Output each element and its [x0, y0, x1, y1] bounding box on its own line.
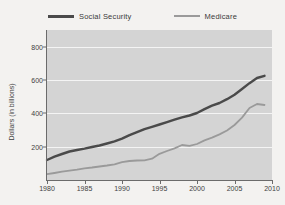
x-tick-label: 2005 [227, 185, 243, 192]
chart-legend: Social Security Medicare [0, 8, 285, 24]
series-line-social-security [47, 76, 265, 160]
y-tick-label: 200 [31, 143, 43, 150]
series-lines [47, 30, 272, 180]
y-tick-label: 400 [31, 110, 43, 117]
x-tick-label: 1990 [114, 185, 130, 192]
x-tick-mark [272, 180, 273, 184]
x-tick-label: 2010 [264, 185, 280, 192]
legend-label-social-security: Social Security [79, 12, 132, 21]
x-tick-label: 1980 [39, 185, 55, 192]
x-axis-line [46, 180, 272, 181]
legend-label-medicare: Medicare [205, 12, 237, 21]
plot-area: 200400600800 198019851990199520002005201… [47, 30, 272, 180]
legend-item-social-security: Social Security [48, 12, 132, 21]
legend-swatch-social-security [48, 15, 74, 18]
x-tick-label: 1985 [77, 185, 93, 192]
legend-swatch-medicare [174, 15, 200, 17]
series-line-medicare [47, 104, 265, 174]
y-axis-line [46, 30, 47, 180]
y-tick-label: 600 [31, 77, 43, 84]
line-chart: Social Security Medicare Dollars (in bil… [0, 0, 285, 205]
y-tick-label: 800 [31, 43, 43, 50]
legend-item-medicare: Medicare [174, 12, 237, 21]
y-axis-title: Dollars (in billions) [8, 0, 15, 62]
x-tick-label: 1995 [152, 185, 168, 192]
x-tick-label: 2000 [189, 185, 205, 192]
